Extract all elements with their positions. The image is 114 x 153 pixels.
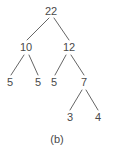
tree-edge [86, 90, 98, 110]
tree-node-n7: 3 [67, 112, 73, 123]
tree-edge [11, 55, 24, 75]
tree-node-n0: 22 [45, 6, 57, 17]
tree-edge [27, 18, 49, 40]
tree-node-n4: 5 [35, 77, 41, 88]
tree-node-n5: 5 [51, 77, 57, 88]
tree-edge [54, 18, 69, 40]
tree-node-n2: 12 [63, 42, 75, 53]
tree-node-n1: 10 [20, 42, 32, 53]
tree-edge [29, 55, 38, 75]
tree-edge [70, 90, 82, 110]
figure-caption: (b) [50, 134, 63, 145]
tree-node-n3: 5 [7, 77, 13, 88]
tree-node-n6: 7 [81, 77, 87, 88]
tree-edge [55, 55, 66, 75]
tree-node-n8: 4 [95, 112, 101, 123]
tree-edge [71, 55, 84, 75]
binary-tree-figure: 221012555734 (b) [0, 0, 114, 153]
